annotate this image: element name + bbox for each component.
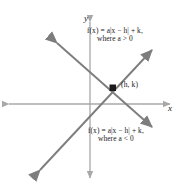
vertex-point-label: (h, k) [121, 81, 138, 90]
annotation-a-negative: f(x) = a|x − h| + k, where a < 0 [88, 127, 144, 144]
annotation-a-negative-condition: where a < 0 [88, 135, 144, 143]
x-axis-label: x [168, 103, 172, 113]
vertex-marker [110, 85, 117, 92]
annotation-a-positive: f(x) = a|x − h| + k, where a > 0 [87, 27, 143, 44]
y-axis-label: y [84, 13, 88, 23]
annotation-a-positive-condition: where a > 0 [87, 35, 143, 43]
absolute-value-function-figure: y x (h, k) f(x) = a|x − h| + k, where a … [0, 0, 179, 186]
line-a-positive [40, 50, 152, 170]
